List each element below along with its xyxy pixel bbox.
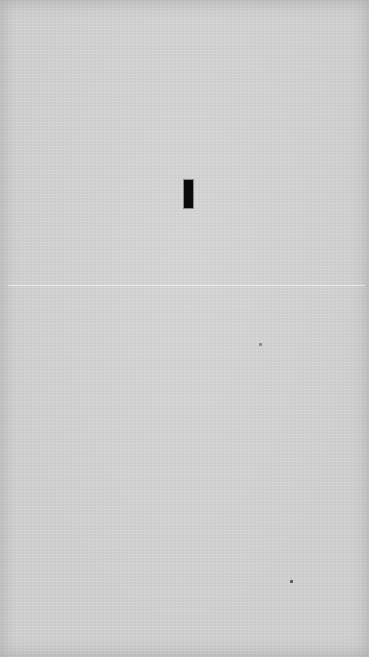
text-cursor-icon (184, 180, 193, 208)
speck (259, 343, 262, 346)
paper-surface (0, 0, 369, 657)
paper-crease (8, 285, 365, 286)
speck (290, 580, 293, 583)
